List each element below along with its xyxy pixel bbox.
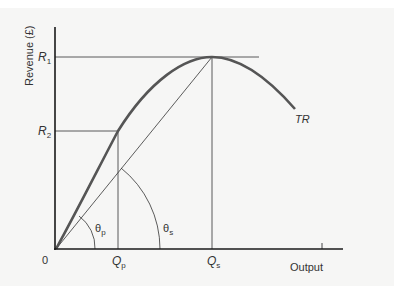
tr-curve-label: TR (295, 113, 310, 125)
qs-label: Qs (207, 254, 220, 270)
x-axis-label: Output (290, 261, 323, 273)
theta-s-arc (121, 168, 160, 249)
r1-label: R1 (38, 50, 52, 66)
chord-to-r1 (56, 57, 212, 249)
theta-s-label: θs (163, 222, 173, 237)
origin-label: 0 (42, 254, 48, 266)
theta-p-label: θp (95, 222, 106, 237)
y-axis-label: Revenue (£) (23, 25, 35, 86)
r2-label: R2 (38, 124, 52, 140)
total-revenue-diagram: Revenue (£) R1 R2 0 Qp Qs Output θp θs T… (0, 0, 417, 293)
tr-curve (56, 57, 295, 249)
qp-label: Qp (112, 254, 126, 270)
theta-p-arc (79, 216, 95, 249)
